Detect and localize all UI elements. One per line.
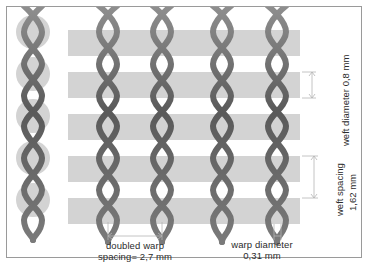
warp-column-left (16, 6, 50, 240)
label-doubled-warp-spacing-line2: spacing= 2,7 mm (75, 251, 195, 263)
label-weft-spacing-line1: weft spacing (334, 163, 346, 216)
dimension-weft-spacing (302, 156, 318, 198)
label-weft-diameter: weft diameter 0,8 mm (340, 55, 352, 146)
dimension-weft-diameter (302, 72, 316, 98)
mesh-diagram (0, 0, 369, 270)
label-doubled-warp-spacing-line1: doubled warp (75, 240, 195, 252)
figure-root: weft diameter 0,8 mm weft spacing 1,62 m… (0, 0, 369, 270)
label-warp-diameter-line1: warp diameter (207, 239, 317, 251)
label-weft-spacing-line2: 1,62 mm (347, 174, 359, 211)
label-warp-diameter-line2: 0,31 mm (207, 250, 317, 262)
